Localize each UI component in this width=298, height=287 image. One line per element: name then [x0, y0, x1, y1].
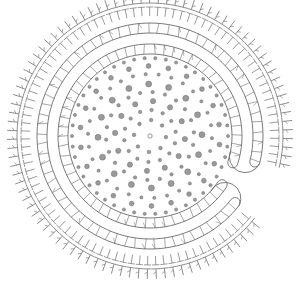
- dot: [206, 111, 209, 114]
- dot: [87, 145, 90, 148]
- band-cell-divider: [60, 155, 70, 156]
- dot: [100, 154, 106, 160]
- band-cell-divider: [90, 40, 96, 48]
- dot: [200, 100, 203, 103]
- tick-mark: [7, 127, 30, 135]
- band-cell-divider: [59, 144, 69, 146]
- dot: [209, 124, 212, 127]
- band-cell-divider: [44, 171, 53, 174]
- band-cell-divider: [49, 85, 58, 89]
- tick-mark: [267, 159, 289, 167]
- band-cell-divider: [145, 239, 146, 249]
- dot: [150, 108, 153, 111]
- tick-mark: [44, 40, 61, 56]
- dot: [192, 131, 195, 134]
- tick-mark: [208, 11, 219, 31]
- dot: [154, 212, 157, 215]
- band-cell-divider: [230, 115, 240, 117]
- dot: [184, 65, 187, 68]
- dot: [127, 149, 130, 152]
- dot: [144, 168, 149, 173]
- dot: [138, 122, 142, 126]
- dot: [127, 193, 130, 196]
- dot: [109, 114, 112, 117]
- band-cell-hatch: [164, 45, 165, 50]
- tick-mark: [268, 109, 291, 117]
- band-cell-divider: [125, 237, 128, 247]
- center-dot: [148, 134, 152, 138]
- band-cell-hatch: [139, 24, 142, 29]
- tick-mark: [88, 7, 98, 28]
- dot: [73, 155, 76, 158]
- band-cell-hatch: [60, 116, 65, 117]
- dot: [150, 99, 155, 104]
- dot: [94, 89, 99, 94]
- band-cell-divider: [66, 98, 75, 103]
- tick-mark: [238, 39, 255, 55]
- dot: [88, 184, 91, 187]
- band-cell-divider: [125, 48, 127, 58]
- dot: [127, 96, 130, 99]
- tick-mark: [226, 229, 240, 247]
- band-cell-divider: [134, 45, 135, 55]
- dot: [70, 134, 73, 137]
- band-cell-divider: [71, 179, 80, 184]
- tick-mark: [270, 126, 293, 134]
- dot: [179, 119, 184, 124]
- dot: [147, 150, 151, 154]
- band-cell-divider: [45, 94, 54, 98]
- dot: [168, 152, 171, 155]
- tick-mark: [118, 253, 126, 275]
- tick-mark: [213, 238, 225, 258]
- dot: [129, 117, 132, 120]
- band-cell-divider: [58, 127, 68, 128]
- dot: [93, 107, 96, 110]
- band-cell-divider: [83, 192, 90, 199]
- band-cell-divider: [196, 34, 199, 44]
- tick-mark: [269, 151, 292, 159]
- tick-mark: [162, 0, 170, 17]
- tick-mark: [102, 249, 111, 271]
- dot: [224, 155, 227, 158]
- dot: [167, 105, 172, 110]
- dot: [133, 211, 136, 214]
- tick-mark: [37, 210, 55, 224]
- dot: [146, 178, 149, 181]
- band-cell-divider: [63, 107, 72, 110]
- dot: [133, 102, 138, 107]
- dot: [183, 95, 189, 101]
- dot: [113, 130, 118, 135]
- dot: [77, 103, 80, 106]
- dot: [133, 176, 136, 179]
- dot: [123, 139, 126, 142]
- tick-mark: [65, 21, 79, 39]
- band-cell-divider: [252, 151, 262, 152]
- dot: [131, 75, 134, 78]
- band-cell-hatch: [236, 145, 241, 147]
- tick-mark: [27, 197, 47, 209]
- dot: [77, 165, 80, 168]
- band-cell-divider: [67, 171, 76, 175]
- dot: [197, 173, 200, 176]
- tick-mark: [120, 0, 128, 18]
- tick-mark: [104, 0, 113, 22]
- tick-mark: [237, 219, 254, 235]
- band-cell-divider: [248, 101, 258, 103]
- dot: [170, 119, 173, 122]
- band-cell-divider: [195, 59, 201, 67]
- tick-mark: [177, 253, 185, 275]
- dot: [117, 104, 120, 107]
- tick-mark: [13, 93, 35, 102]
- tick-mark: [187, 0, 196, 22]
- dot: [126, 67, 131, 72]
- tick-mark: [129, 0, 137, 17]
- tick-mark: [39, 46, 57, 60]
- band-cell-divider: [221, 88, 229, 94]
- dot: [109, 97, 115, 103]
- dot: [107, 150, 110, 153]
- band-cell-divider: [200, 226, 204, 235]
- dot: [217, 142, 222, 147]
- tick-mark: [154, 0, 162, 16]
- dot: [147, 160, 150, 163]
- dot: [209, 184, 212, 187]
